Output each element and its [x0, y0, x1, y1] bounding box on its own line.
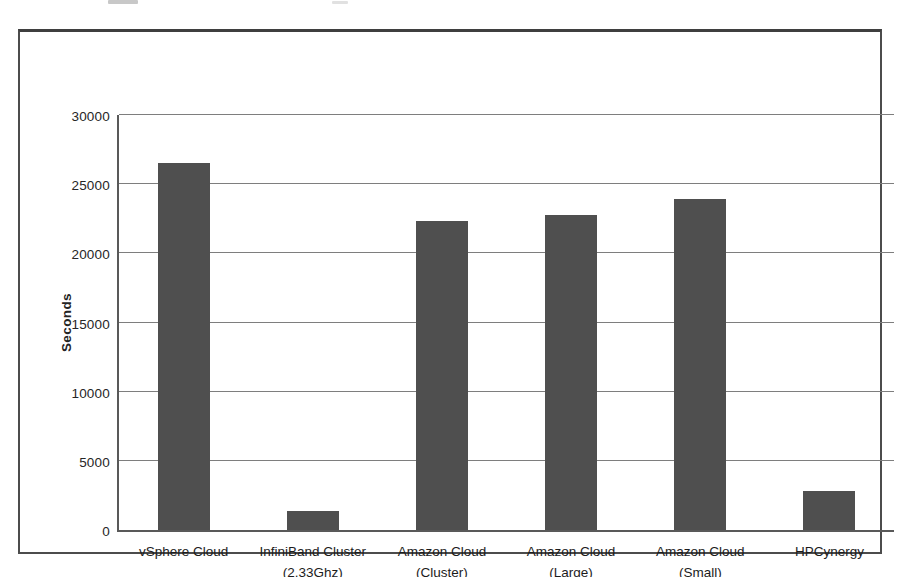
y-tick-label: 20000: [71, 247, 110, 262]
bar: [803, 491, 855, 530]
x-axis-labels: vSphere CloudInfiniBand Cluster (2.33Ghz…: [119, 541, 894, 577]
y-axis-title: Seconds: [57, 115, 77, 530]
scan-artifact: [108, 0, 138, 4]
x-category-label: vSphere Cloud: [119, 541, 248, 577]
bar-slot: [507, 95, 636, 530]
y-tick-label: 0: [102, 524, 110, 539]
scanned-page: 050001000015000200002500030000 Seconds v…: [0, 0, 904, 577]
x-category-label: Amazon Cloud (Cluster): [377, 541, 506, 577]
bar: [674, 199, 726, 530]
y-axis-title-text: Seconds: [60, 293, 75, 352]
x-category-label: InfiniBand Cluster (2.33Ghz): [248, 541, 377, 577]
bar: [287, 511, 339, 530]
y-tick-label: 10000: [71, 386, 110, 401]
y-tick-label: 15000: [71, 317, 110, 332]
bar-slot: [636, 95, 765, 530]
x-category-label: HPCynergy: [765, 541, 894, 577]
bar-slot: [119, 95, 248, 530]
bar-slot: [377, 95, 506, 530]
bar-slot: [248, 95, 377, 530]
bar: [416, 221, 468, 530]
bar: [158, 163, 210, 530]
bar: [545, 215, 597, 530]
y-tick-label: 30000: [71, 109, 110, 124]
scan-artifact: [332, 1, 348, 4]
x-category-label: Amazon Cloud (Large): [507, 541, 636, 577]
x-category-label: Amazon Cloud (Small): [636, 541, 765, 577]
bar-slot: [765, 95, 894, 530]
y-tick-label: 25000: [71, 178, 110, 193]
plot-area: 050001000015000200002500030000 Seconds v…: [117, 115, 894, 532]
y-tick-label: 5000: [79, 455, 110, 470]
chart-frame: 050001000015000200002500030000 Seconds v…: [18, 29, 882, 554]
